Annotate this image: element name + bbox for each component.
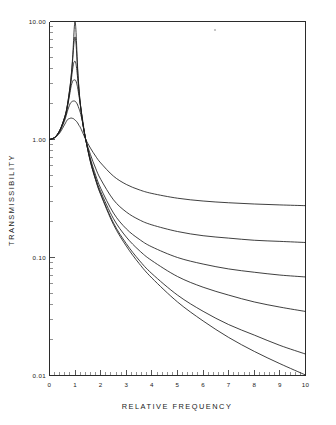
x-tick-label: 6	[201, 381, 205, 388]
x-tick-label: 5	[176, 381, 180, 388]
transmissibility-chart: 0.010.101.0010.00 012345678910 RELATIVE …	[0, 0, 336, 425]
y-tick-label: 0.10	[33, 254, 47, 261]
x-tick-label: 9	[278, 381, 282, 388]
x-tick-label: 1	[73, 381, 77, 388]
x-tick-label: 4	[150, 381, 154, 388]
y-tick-label: 10.00	[29, 18, 46, 25]
scan-speck	[214, 29, 216, 31]
x-tick-label: 10	[302, 381, 310, 388]
x-tick-label: 0	[48, 381, 52, 388]
chart-background	[0, 0, 336, 425]
x-tick-label: 8	[252, 381, 256, 388]
x-tick-label: 7	[227, 381, 231, 388]
x-tick-label: 3	[124, 381, 128, 388]
y-tick-label: 0.01	[33, 372, 47, 379]
y-tick-label: 1.00	[33, 136, 47, 143]
x-axis-title: RELATIVE FREQUENCY	[122, 402, 233, 411]
chart-canvas: 0.010.101.0010.00 012345678910 RELATIVE …	[0, 0, 336, 425]
x-tick-label: 2	[99, 381, 103, 388]
y-axis-title: TRANSMISSIBILITY	[7, 154, 16, 246]
